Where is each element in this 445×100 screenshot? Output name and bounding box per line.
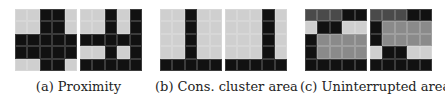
grid-cell xyxy=(330,59,342,71)
grid-cell xyxy=(305,34,317,46)
panel-c-uninterrupted-area: (c) Uninterrupted area xyxy=(0,0,445,100)
grid-cell xyxy=(330,21,342,33)
grid-cell xyxy=(420,59,432,71)
grid-cell xyxy=(407,34,419,46)
grid-cell xyxy=(355,59,367,71)
caption-c: (c) Uninterrupted area xyxy=(300,79,438,94)
grid-cell xyxy=(370,21,382,33)
grid-cell xyxy=(382,59,394,71)
grid-cell xyxy=(395,34,407,46)
grid-cell xyxy=(382,46,394,58)
grid-cell xyxy=(342,46,354,58)
grid-cell xyxy=(342,34,354,46)
grid-cell xyxy=(305,21,317,33)
grid-cell xyxy=(355,21,367,33)
grid-cell xyxy=(355,46,367,58)
grid-cell xyxy=(355,9,367,21)
grid-cell xyxy=(355,34,367,46)
grid-cell xyxy=(370,9,382,21)
grid-cell xyxy=(342,59,354,71)
grid-cell xyxy=(305,46,317,58)
grid-cell xyxy=(395,9,407,21)
grid-cell xyxy=(305,9,317,21)
grid-c1 xyxy=(305,9,367,71)
grid-cell xyxy=(317,34,329,46)
grid-cell xyxy=(305,59,317,71)
grid-cell xyxy=(420,9,432,21)
grid-cell xyxy=(420,46,432,58)
grid-cell xyxy=(420,34,432,46)
grid-cell xyxy=(407,46,419,58)
grid-cell xyxy=(330,9,342,21)
grid-cell xyxy=(342,9,354,21)
grid-cell xyxy=(330,34,342,46)
grid-cell xyxy=(382,21,394,33)
grid-cell xyxy=(370,59,382,71)
grid-cell xyxy=(395,21,407,33)
grid-cell xyxy=(317,21,329,33)
grid-cell xyxy=(317,59,329,71)
grid-cell xyxy=(342,21,354,33)
grid-cell xyxy=(317,46,329,58)
grid-cell xyxy=(407,21,419,33)
grid-cell xyxy=(330,46,342,58)
grid-cell xyxy=(370,34,382,46)
grid-cell xyxy=(382,34,394,46)
grid-cell xyxy=(395,46,407,58)
grid-cell xyxy=(395,59,407,71)
grid-cell xyxy=(407,59,419,71)
grid-c2 xyxy=(370,9,432,71)
grid-cell xyxy=(317,9,329,21)
grid-cell xyxy=(420,21,432,33)
grid-cell xyxy=(407,9,419,21)
grid-cell xyxy=(382,9,394,21)
grid-cell xyxy=(370,46,382,58)
